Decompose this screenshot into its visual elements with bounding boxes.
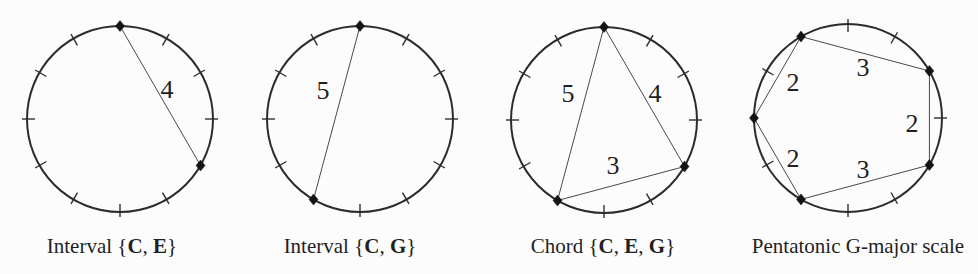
caption-text: Pentatonic G-major scale — [752, 234, 964, 258]
caption-text: } — [406, 234, 416, 258]
interval-label-4-7: 3 — [607, 151, 620, 180]
diagram-interval-c-g: 5 — [262, 21, 458, 218]
caption-text: , — [638, 234, 649, 258]
caption-text: Interval { — [47, 234, 128, 258]
caption-text: Interval { — [284, 234, 365, 258]
pitch-circle — [511, 27, 697, 213]
diagram-chord-c-e-g: 543 — [506, 22, 702, 219]
interval-label-0-4: 4 — [649, 79, 662, 108]
interval-label-0-7: 5 — [562, 79, 575, 108]
chord-line-4-7 — [558, 167, 685, 201]
caption-note-name: E — [153, 234, 167, 258]
interval-label-9-11: 2 — [787, 68, 800, 97]
caption-interval-c-e: Interval {C, E} — [47, 235, 177, 258]
caption-chord-c-e-g: Chord {C, E, G} — [531, 235, 675, 258]
note-marker-7 — [797, 194, 806, 205]
note-marker-7 — [309, 194, 318, 205]
note-marker-0 — [116, 21, 125, 32]
caption-note-name: C — [364, 234, 379, 258]
caption-note-name: C — [127, 234, 142, 258]
caption-text: } — [665, 234, 675, 258]
caption-pentatonic-g-major: Pentatonic G-major scale — [752, 235, 964, 258]
pitch-class-circle-figure: 4554323232 Interval {C, E}Interval {C, G… — [0, 0, 978, 274]
caption-text: } — [167, 234, 177, 258]
caption-interval-c-g: Interval {C, G} — [284, 235, 417, 258]
caption-text: , — [614, 234, 625, 258]
note-marker-9 — [750, 113, 759, 124]
interval-label-7-9: 2 — [787, 144, 800, 173]
caption-note-name: E — [624, 234, 638, 258]
diagram-interval-c-e: 4 — [22, 21, 218, 218]
caption-text: , — [143, 234, 154, 258]
note-marker-7 — [553, 195, 562, 206]
caption-note-name: G — [649, 234, 665, 258]
interval-label-11-2: 3 — [857, 53, 870, 82]
caption-note-name: G — [390, 234, 406, 258]
note-marker-0 — [356, 21, 365, 32]
chord-line-0-4 — [604, 27, 685, 167]
caption-text: Chord { — [531, 234, 599, 258]
caption-note-name: C — [599, 234, 614, 258]
pitch-circle — [267, 26, 453, 212]
caption-text: , — [379, 234, 390, 258]
note-marker-0 — [600, 22, 609, 33]
chord-line-0-7 — [314, 26, 361, 200]
interval-label-0-7: 5 — [317, 76, 330, 105]
pitch-circle — [27, 26, 213, 212]
interval-label-4-7: 3 — [857, 155, 870, 184]
interval-label-2-4: 2 — [906, 109, 919, 138]
note-marker-11 — [797, 31, 806, 42]
diagram-pentatonic-g-major: 23232 — [750, 19, 948, 217]
chord-line-0-7 — [558, 27, 605, 201]
diagrams-svg: 4554323232 — [0, 0, 978, 274]
interval-label-0-4: 4 — [161, 75, 174, 104]
